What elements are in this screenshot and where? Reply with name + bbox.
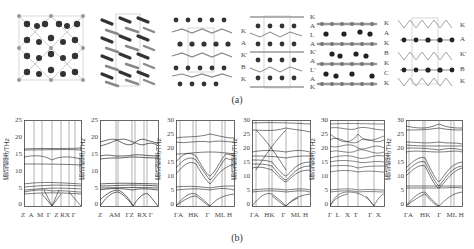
x-tick-labels: ΓA HK Γ ML H	[174, 211, 232, 219]
layer-label: B	[460, 65, 465, 73]
phonon-plot-6: 振动频率/THz 30 25 20 15 10 5 0	[382, 116, 474, 220]
layer-label: K	[460, 21, 465, 29]
layer-label: K	[384, 39, 389, 47]
layer-label: K	[460, 77, 465, 85]
crystal-structure-5: K A K B K C K	[314, 14, 396, 90]
x-tick-labels: Z AM ΓZ RX Γ	[98, 211, 153, 219]
x-tick-labels: Z A M Γ Z RX Γ	[21, 211, 76, 219]
layer-label: K	[384, 79, 389, 87]
layer-label: K	[384, 59, 389, 67]
layer-label: A	[384, 29, 389, 37]
crystal-structure-2	[98, 12, 158, 88]
layer-label: B	[384, 49, 389, 57]
crystal-structure-3: K A K' B K	[170, 14, 260, 90]
x-tick-labels: ΓA HK Γ ML H	[404, 211, 464, 219]
layer-label: C	[384, 69, 389, 77]
crystal-structure-6: K A K' B K	[396, 14, 474, 90]
layer-label: A	[460, 35, 465, 43]
caption-b: (b)	[222, 232, 252, 243]
x-tick-labels: ΓA HK Γ ML H	[250, 211, 308, 219]
x-tick-labels: Γ L X T Γ X	[328, 211, 381, 219]
phonon-plot-5: 振动频率/THz 30 25 20 15 10 5 0	[306, 116, 392, 220]
layer-label: A	[241, 39, 246, 47]
layer-label: B	[241, 63, 246, 71]
layer-label: K'	[460, 50, 466, 58]
layer-label: K	[384, 19, 389, 27]
layer-label: K	[241, 75, 246, 83]
phonon-plot-4: 振动频率/THz 30 25 20 15 10 5 0	[228, 116, 318, 220]
layer-label: K	[241, 27, 246, 35]
crystal-structure-1	[15, 12, 87, 84]
caption-a: (a)	[222, 94, 252, 105]
layer-label: K'	[241, 51, 247, 59]
